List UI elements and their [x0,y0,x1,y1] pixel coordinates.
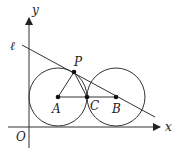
origin-label: O [16,130,26,144]
segment-pc [74,72,87,97]
point-c [85,95,90,100]
point-a [56,95,61,100]
segment-ap [58,72,74,97]
point-p-label: P [73,55,83,69]
x-axis-label: x [165,120,172,134]
y-axis-label: y [31,3,39,17]
geometry-diagram: y x O ℓ P A C B [0,0,179,157]
point-b [114,95,119,100]
point-a-label: A [51,102,61,116]
point-p [72,70,77,75]
point-c-label: C [90,99,99,113]
line-l-label: ℓ [10,39,15,53]
point-b-label: B [111,102,121,116]
